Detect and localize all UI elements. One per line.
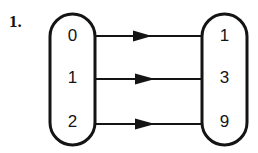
mapping-arrow-head (135, 74, 155, 85)
range-element-9: 9 (220, 112, 229, 131)
range-element-3: 3 (220, 68, 229, 87)
mapping-arrow-0-to-1 (95, 31, 203, 42)
mapping-arrow-1-to-3 (95, 74, 203, 85)
mapping-arrow-head (133, 31, 152, 42)
mapping-arrow-head (135, 119, 155, 130)
domain-element-1: 1 (68, 68, 77, 87)
mapping-diagram-figure: 1. 0 1 2 1 3 9 (0, 0, 258, 153)
domain-element-2: 2 (68, 112, 77, 131)
mapping-arrow-2-to-9 (95, 119, 203, 130)
domain-element-0: 0 (68, 26, 77, 45)
mapping-diagram-svg: 0 1 2 1 3 9 (0, 0, 258, 153)
range-element-1: 1 (220, 26, 229, 45)
